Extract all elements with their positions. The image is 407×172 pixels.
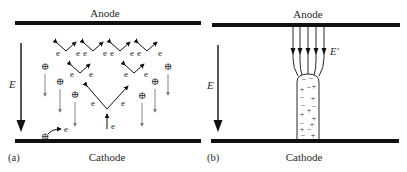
svg-text:⊕: ⊕ — [41, 61, 49, 72]
svg-text:⊕: ⊕ — [71, 89, 79, 100]
svg-text:e: e — [144, 69, 148, 79]
svg-text:+: + — [311, 131, 316, 140]
panel-a: Anode Cathode (a) E e e e e e e e e — [8, 7, 201, 164]
electron-avalanche-top-row — [57, 42, 157, 51]
svg-text:−: − — [312, 102, 317, 111]
svg-text:+: + — [312, 82, 317, 91]
svg-text:e: e — [110, 48, 114, 58]
cathode-label: Cathode — [286, 151, 323, 163]
svg-text:⊕: ⊕ — [138, 90, 146, 101]
svg-text:⊕: ⊕ — [151, 76, 159, 87]
svg-text:e: e — [111, 121, 115, 131]
field-line-arrowheads — [291, 48, 327, 55]
field-label: E — [8, 78, 16, 90]
panel-tag: (a) — [8, 152, 20, 164]
svg-text:+: + — [300, 110, 305, 119]
svg-text:e: e — [70, 69, 74, 79]
field-arrowhead-icon — [214, 120, 223, 132]
streamer-charges: − − + − + − + − + + − + − + + − − + — [300, 74, 317, 140]
field-arrowhead-icon — [17, 120, 26, 132]
svg-text:e: e — [89, 69, 93, 79]
svg-text:−: − — [301, 101, 306, 110]
svg-text:⊕: ⊕ — [56, 76, 64, 87]
svg-text:e: e — [56, 48, 60, 58]
field-label: E — [206, 79, 214, 91]
anode-electrode — [212, 23, 400, 27]
discharge-diagram: Anode Cathode (a) E e e e e e e e e — [0, 0, 407, 172]
svg-text:e: e — [124, 69, 128, 79]
svg-text:⊕: ⊕ — [164, 61, 172, 72]
svg-text:−: − — [301, 131, 306, 140]
anode-label: Anode — [293, 8, 322, 20]
svg-text:e: e — [137, 48, 141, 58]
anode-label: Anode — [90, 7, 119, 19]
svg-text:e: e — [64, 124, 68, 134]
svg-text:e: e — [76, 48, 80, 58]
svg-text:e: e — [158, 48, 162, 58]
svg-text:e: e — [130, 48, 134, 58]
enhanced-field-label: E′ — [329, 46, 339, 57]
anode-electrode — [15, 21, 201, 25]
electron-labels-top: e e e e e e e e — [56, 48, 162, 58]
panel-b: Anode Cathode (b) E E′ − − — [206, 8, 400, 164]
electron-labels-primary: e e e — [91, 98, 125, 131]
electron-avalanche-middle-row — [71, 64, 144, 73]
svg-text:e: e — [103, 48, 107, 58]
panel-tag: (b) — [207, 152, 220, 164]
svg-text:⊕: ⊕ — [41, 131, 49, 142]
svg-text:e: e — [83, 48, 87, 58]
svg-text:e: e — [121, 98, 125, 108]
svg-text:e: e — [91, 98, 95, 108]
cathode-label: Cathode — [89, 151, 126, 163]
